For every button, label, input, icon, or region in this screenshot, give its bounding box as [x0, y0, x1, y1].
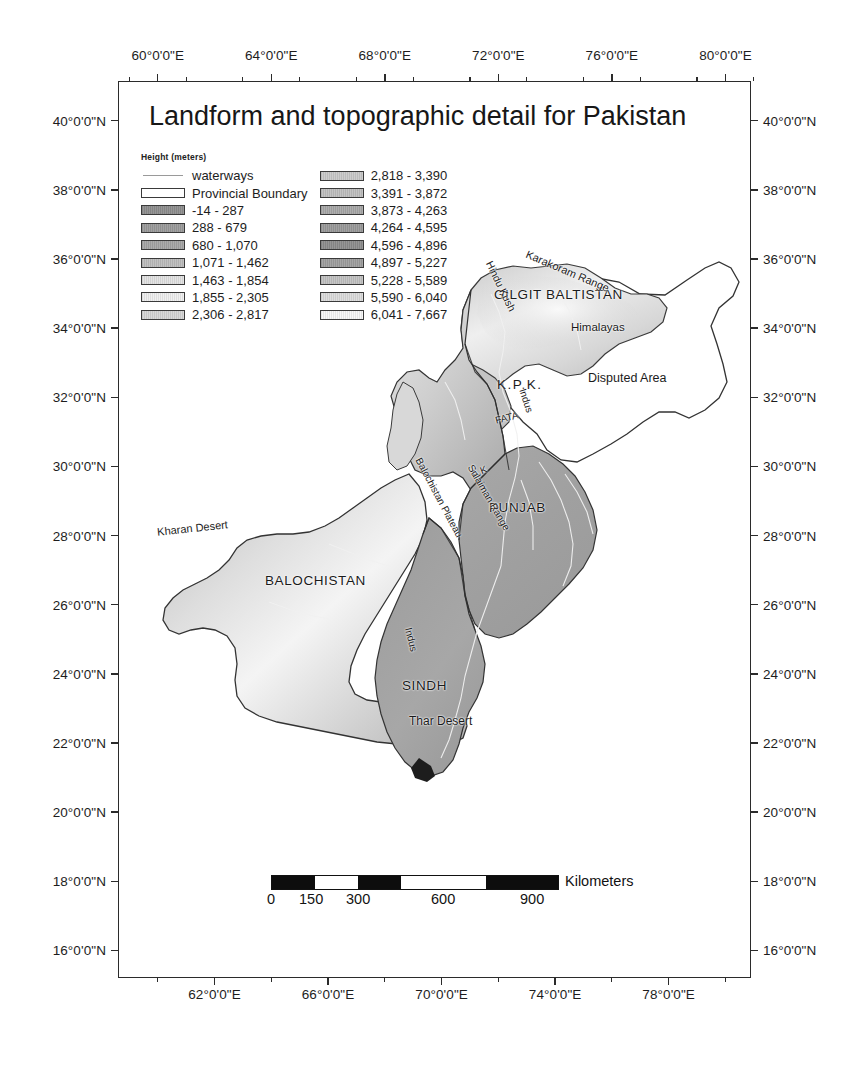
legend-item-label: 6,041 - 7,667 [371, 308, 448, 321]
axis-left-label: 18°0'0"N [53, 874, 106, 889]
legend-column-2: 2,818 - 3,3903,391 - 3,8723,873 - 4,2634… [320, 167, 448, 324]
map-title: Landform and topographic detail for Paki… [149, 101, 686, 132]
legend-swatch [320, 205, 364, 215]
legend-swatch-waterways [141, 171, 185, 181]
axis-right-label: 38°0'0"N [763, 182, 816, 197]
legend-item-label: 288 - 679 [192, 221, 247, 234]
axis-right-label: 18°0'0"N [763, 874, 816, 889]
axis-right-label: 36°0'0"N [763, 252, 816, 267]
axis-top-label: 80°0'0"E [699, 48, 752, 63]
scale-tick-0: 0 [267, 891, 275, 907]
axis-right-label: 16°0'0"N [763, 943, 816, 958]
axis-right-label: 34°0'0"N [763, 321, 816, 336]
axis-left-label: 32°0'0"N [53, 390, 106, 405]
axis-bottom-minor-tick [157, 978, 158, 982]
map-page: Landform and topographic detail for Paki… [0, 0, 868, 1083]
axis-bottom-minor-tick [214, 978, 215, 982]
axis-bottom-label: 62°0'0"E [188, 987, 241, 1002]
legend-swatch [141, 258, 185, 268]
legend-swatch [320, 310, 364, 320]
axis-left-label: 36°0'0"N [53, 252, 106, 267]
map-legend: Height (meters) waterwaysProvincial Boun… [141, 152, 541, 324]
axis-top-minor-tick [526, 77, 527, 81]
legend-swatch [141, 240, 185, 250]
legend-swatch [141, 205, 185, 215]
legend-swatch [141, 223, 185, 233]
axis-top-tick [384, 74, 385, 81]
axis-left-tick [111, 604, 118, 605]
axis-left-tick [111, 881, 118, 882]
axis-right-label: 30°0'0"N [763, 459, 816, 474]
axis-right-tick [751, 673, 758, 674]
axis-right-label: 24°0'0"N [763, 666, 816, 681]
legend-item: 3,873 - 4,263 [320, 202, 448, 219]
scale-bar-segments [271, 875, 559, 890]
axis-left-label: 34°0'0"N [53, 321, 106, 336]
scale-bar: Kilometers 0 150 300 600 900 [271, 875, 559, 890]
axis-right-tick [751, 189, 758, 190]
legend-item: 4,897 - 5,227 [320, 254, 448, 271]
axis-right-label: 40°0'0"N [763, 113, 816, 128]
axis-left-tick [111, 950, 118, 951]
scale-seg-3 [358, 876, 401, 889]
axis-left-tick [111, 742, 118, 743]
axis-left-tick [111, 811, 118, 812]
legend-item: 4,264 - 4,595 [320, 219, 448, 236]
legend-swatch [320, 188, 364, 198]
axis-top-tick [157, 74, 158, 81]
legend-column-1: waterwaysProvincial Boundary-14 - 287288… [141, 167, 308, 324]
legend-item-label: Provincial Boundary [192, 187, 308, 200]
axis-left-label: 22°0'0"N [53, 735, 106, 750]
axis-top-tick [271, 74, 272, 81]
legend-item: 6,041 - 7,667 [320, 306, 448, 323]
axis-bottom-minor-tick [668, 978, 669, 982]
axis-right-tick [751, 881, 758, 882]
legend-item-label: 1,463 - 1,854 [192, 274, 269, 287]
legend-item-label: waterways [192, 169, 253, 182]
axis-bottom-minor-tick [611, 978, 612, 982]
axis-bottom-minor-tick [498, 978, 499, 982]
legend-item-label: 5,590 - 6,040 [371, 291, 448, 304]
axis-bottom-label: 70°0'0"E [415, 987, 468, 1002]
legend-item: 680 - 1,070 [141, 237, 308, 254]
axis-top-minor-tick [753, 77, 754, 81]
axis-top-minor-tick [129, 77, 130, 81]
legend-item-label: 1,071 - 1,462 [192, 256, 269, 269]
legend-item: 5,590 - 6,040 [320, 289, 448, 306]
axis-top-minor-tick [186, 77, 187, 81]
legend-item-label: 2,306 - 2,817 [192, 308, 269, 321]
axis-left-tick [111, 397, 118, 398]
axis-right-tick [751, 327, 758, 328]
scale-seg-1 [272, 876, 315, 889]
axis-top-minor-tick [696, 77, 697, 81]
axis-left-label: 40°0'0"N [53, 113, 106, 128]
axis-left-tick [111, 258, 118, 259]
axis-top-label: 64°0'0"E [245, 48, 298, 63]
legend-item: -14 - 287 [141, 202, 308, 219]
axis-left-label: 26°0'0"N [53, 597, 106, 612]
legend-item: 1,463 - 1,854 [141, 271, 308, 288]
legend-item-label: 3,873 - 4,263 [371, 204, 448, 217]
legend-item-label: 4,596 - 4,896 [371, 239, 448, 252]
scale-tick-300: 300 [346, 891, 370, 907]
axis-top-minor-tick [469, 77, 470, 81]
legend-swatch [320, 275, 364, 285]
axis-bottom-label: 74°0'0"E [529, 987, 582, 1002]
axis-top-tick [611, 74, 612, 81]
axis-bottom-label: 66°0'0"E [302, 987, 355, 1002]
axis-top-label: 72°0'0"E [472, 48, 525, 63]
axis-right-tick [751, 742, 758, 743]
scale-seg-4 [401, 876, 487, 889]
legend-item-label: 4,897 - 5,227 [371, 256, 448, 269]
axis-left-label: 28°0'0"N [53, 528, 106, 543]
axis-left-tick [111, 189, 118, 190]
legend-swatch [320, 171, 364, 181]
legend-swatch [141, 292, 185, 302]
axis-right-label: 20°0'0"N [763, 805, 816, 820]
legend-item-label: 1,855 - 2,305 [192, 291, 269, 304]
legend-heading: Height (meters) [141, 152, 541, 162]
axis-bottom-minor-tick [271, 978, 272, 982]
axis-bottom-minor-tick [441, 978, 442, 982]
axis-right-label: 32°0'0"N [763, 390, 816, 405]
axis-bottom-label: 78°0'0"E [642, 987, 695, 1002]
